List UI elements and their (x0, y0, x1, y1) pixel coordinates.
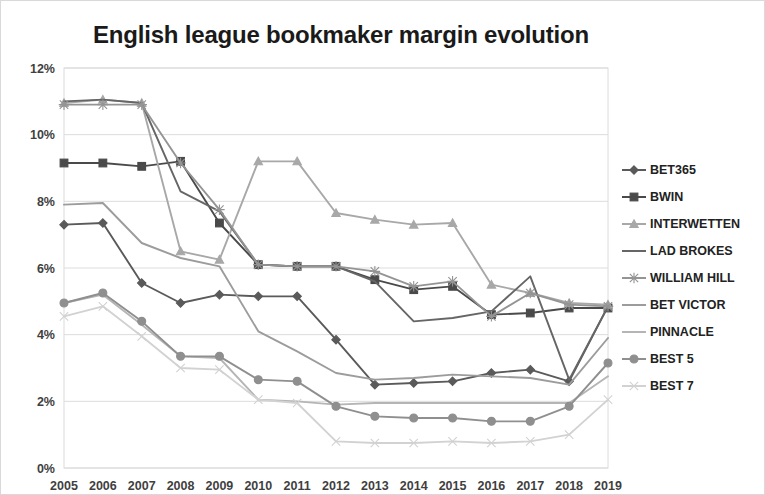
legend-item-best-5[interactable]: BEST 5 (621, 345, 740, 372)
x-axis-tick-label: 2012 (322, 479, 350, 493)
legend-item-label: BWIN (650, 190, 683, 204)
legend-item-label: BET VICTOR (650, 298, 725, 312)
series-line (64, 223, 608, 385)
data-point-marker (525, 288, 536, 299)
y-axis-tick-label: 6% (37, 262, 55, 276)
x-axis-tick-labels: 2005200620072008200920102011201220132014… (50, 479, 622, 493)
data-point-marker (215, 352, 223, 360)
data-point-marker (603, 301, 614, 312)
data-point-marker (254, 292, 262, 300)
data-point-marker (60, 220, 68, 228)
data-point-marker (447, 276, 458, 287)
legend-item-william-hill[interactable]: WILLIAM HILL (621, 264, 740, 291)
data-point-marker (138, 162, 146, 170)
x-axis-tick-label: 2008 (167, 479, 195, 493)
data-point-marker (370, 266, 381, 277)
data-point-marker (253, 259, 263, 270)
data-point-marker (60, 299, 68, 307)
legend-swatch-icon (621, 244, 647, 258)
x-axis-tick-label: 2019 (594, 479, 622, 493)
legend-swatch-icon (621, 163, 647, 177)
data-point-marker (487, 417, 495, 425)
data-series-layer (59, 95, 614, 447)
y-axis-tick-label: 10% (30, 128, 55, 142)
data-point-marker (565, 402, 573, 410)
data-point-marker (630, 165, 638, 173)
y-axis-tick-label: 12% (30, 62, 55, 76)
data-point-marker (332, 402, 340, 410)
data-point-marker (175, 158, 186, 169)
x-axis-tick-label: 2015 (439, 479, 467, 493)
legend-item-label: BEST 7 (650, 379, 694, 393)
legend-swatch-icon (621, 379, 647, 393)
y-axis-tick-label: 4% (37, 328, 55, 342)
data-point-marker (448, 377, 456, 385)
legend-item-pinnacle[interactable]: PINNACLE (621, 318, 740, 345)
data-point-marker (214, 204, 225, 215)
data-point-marker (138, 332, 146, 340)
data-point-marker (486, 311, 497, 322)
chart-container: English league bookmaker margin evolutio… (0, 0, 765, 495)
legend-item-bet-victor[interactable]: BET VICTOR (621, 291, 740, 318)
data-point-marker (98, 99, 109, 110)
data-point-marker (630, 193, 638, 201)
data-point-marker (59, 99, 70, 110)
x-axis-tick-label: 2016 (478, 479, 506, 493)
data-point-marker (526, 309, 534, 317)
data-point-marker (215, 290, 223, 298)
legend-item-best-7[interactable]: BEST 7 (621, 372, 740, 399)
data-point-marker (604, 359, 612, 367)
data-point-marker (449, 414, 457, 422)
x-axis-tick-label: 2014 (400, 479, 428, 493)
legend-item-label: LAD BROKES (650, 244, 733, 258)
data-point-marker (526, 417, 534, 425)
data-point-marker (136, 99, 147, 110)
x-axis-tick-label: 2013 (361, 479, 389, 493)
legend-item-label: BET365 (650, 163, 696, 177)
series-line (64, 100, 608, 305)
data-point-marker (371, 412, 379, 420)
data-point-marker (177, 352, 185, 360)
y-axis-tick-label: 8% (37, 195, 55, 209)
data-point-marker (216, 219, 224, 227)
x-axis-tick-label: 2007 (128, 479, 156, 493)
x-axis-tick-label: 2009 (206, 479, 234, 493)
data-point-marker (99, 289, 107, 297)
data-point-marker (629, 272, 640, 283)
data-point-marker (138, 317, 146, 325)
data-point-marker (60, 159, 68, 167)
legend-item-label: BEST 5 (650, 352, 694, 366)
data-point-marker (176, 299, 184, 307)
data-point-marker (176, 247, 184, 255)
x-axis-tick-label: 2010 (244, 479, 272, 493)
data-point-marker (254, 376, 262, 384)
data-point-marker (292, 261, 303, 272)
legend-swatch-icon (621, 325, 647, 339)
data-point-marker (331, 261, 342, 272)
legend-swatch-icon (621, 217, 647, 231)
legend-item-bwin[interactable]: BWIN (621, 183, 740, 210)
legend-item-interwetten[interactable]: INTERWETTEN (621, 210, 740, 237)
series-line (64, 203, 608, 385)
legend-swatch-icon (621, 190, 647, 204)
legend-swatch-icon (621, 352, 647, 366)
data-point-marker (293, 377, 301, 385)
legend-item-lad-brokes[interactable]: LAD BROKES (621, 237, 740, 264)
x-axis-tick-label: 2018 (555, 479, 583, 493)
legend-item-label: PINNACLE (650, 325, 714, 339)
chart-legend: BET365BWININTERWETTENLAD BROKESWILLIAM H… (621, 156, 740, 399)
legend-swatch-icon (621, 298, 647, 312)
y-axis-tick-label: 0% (37, 462, 55, 476)
x-axis-tick-label: 2006 (89, 479, 117, 493)
legend-swatch-icon (621, 271, 647, 285)
data-point-marker (410, 414, 418, 422)
x-axis-tick-label: 2011 (284, 479, 311, 493)
data-point-marker (99, 159, 107, 167)
data-point-marker (630, 355, 638, 363)
legend-item-bet365[interactable]: BET365 (621, 156, 740, 183)
x-axis-tick-label: 2017 (516, 479, 544, 493)
data-point-marker (526, 365, 534, 373)
legend-item-label: WILLIAM HILL (650, 271, 735, 285)
legend-item-label: INTERWETTEN (650, 217, 740, 231)
y-axis-tick-labels: 0%2%4%6%8%10%12% (30, 62, 55, 476)
